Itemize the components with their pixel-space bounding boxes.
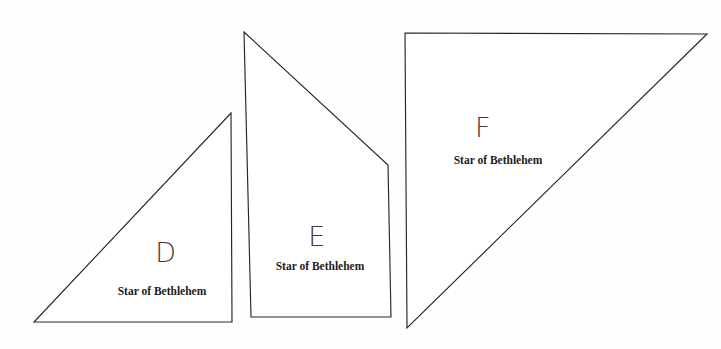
pattern-pieces-svg xyxy=(0,0,721,349)
piece-label-e: E xyxy=(308,221,326,252)
piece-label-d: D xyxy=(155,237,176,268)
quilt-pattern-sheet: D Star of Bethlehem E Star of Bethlehem … xyxy=(0,0,721,349)
piece-caption-e: Star of Bethlehem xyxy=(276,260,365,272)
piece-outline-e xyxy=(244,32,391,317)
piece-label-f: F xyxy=(475,112,491,143)
piece-caption-d: Star of Bethlehem xyxy=(118,285,207,297)
piece-caption-f: Star of Bethlehem xyxy=(454,154,543,166)
piece-outline-f xyxy=(405,33,707,328)
